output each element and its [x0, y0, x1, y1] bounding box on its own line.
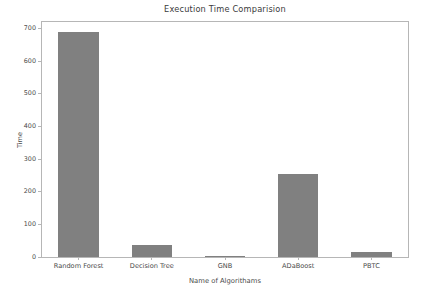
y-tick-mark: [38, 191, 41, 192]
x-tick-mark: [151, 257, 152, 260]
bar-adaboost: [278, 174, 318, 257]
y-tick-mark: [38, 93, 41, 94]
y-tick-label: 600: [24, 57, 36, 65]
bar-random-forest: [58, 32, 98, 257]
y-tick-label: 0: [32, 253, 36, 261]
x-tick-mark: [371, 257, 372, 260]
x-axis-label: Name of Algorithams: [42, 277, 408, 285]
chart-title: Execution Time Comparision: [41, 4, 409, 14]
x-tick-mark: [78, 257, 79, 260]
plot-area: 0100200300400500600700 Random ForestDeci…: [41, 21, 409, 258]
bar-decision-tree: [132, 245, 172, 257]
y-tick-mark: [38, 126, 41, 127]
x-tick-mark: [298, 257, 299, 260]
x-tick-label: ADaBoost: [282, 262, 314, 270]
y-tick-label: 700: [24, 24, 36, 32]
chart-figure: Execution Time Comparision 0100200300400…: [0, 0, 421, 304]
x-tick-label: Decision Tree: [130, 262, 174, 270]
x-tick-mark: [225, 257, 226, 260]
x-tick-label: PBTC: [363, 262, 380, 270]
y-tick-mark: [38, 159, 41, 160]
y-tick-mark: [38, 61, 41, 62]
y-tick-label: 100: [24, 220, 36, 228]
y-tick-mark: [38, 257, 41, 258]
y-tick-mark: [38, 28, 41, 29]
y-tick-mark: [38, 224, 41, 225]
y-axis-label: Time: [16, 132, 24, 148]
y-tick-label: 300: [24, 155, 36, 163]
plot-inner: 0100200300400500600700 Random ForestDeci…: [42, 22, 408, 257]
x-tick-label: Random Forest: [54, 262, 104, 270]
y-tick-label: 400: [24, 122, 36, 130]
x-tick-label: GNB: [218, 262, 233, 270]
y-tick-label: 200: [24, 187, 36, 195]
y-tick-label: 500: [24, 89, 36, 97]
